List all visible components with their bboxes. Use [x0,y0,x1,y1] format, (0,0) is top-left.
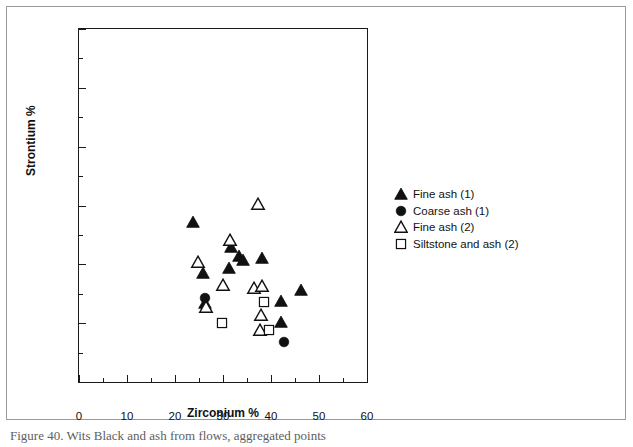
y-axis-tick [79,147,86,148]
x-axis-tick [175,375,176,382]
x-axis-tick [367,375,368,382]
data-point-marker [216,317,228,329]
data-point-marker [278,336,290,348]
y-axis-minor-tick [79,235,83,236]
x-axis-minor-tick [247,378,248,382]
data-point-marker [294,283,308,297]
x-axis-tick-label: 10 [107,411,147,423]
y-axis-minor-tick [79,294,83,295]
x-axis-tick [271,375,272,382]
x-axis-minor-tick [151,378,152,382]
x-axis-minor-tick [199,378,200,382]
data-point-marker [274,294,288,308]
data-point-marker [274,315,288,329]
data-point-marker [254,308,268,322]
legend-item-label: Coarse ash (1) [409,205,489,217]
x-axis-tick-label: 40 [251,411,291,423]
x-axis-minor-tick [295,378,296,382]
y-axis-tick [79,323,86,324]
data-point-marker [255,279,269,293]
x-axis-tick-label: 30 [203,411,243,423]
data-point-marker [216,278,230,292]
figure-caption: Figure 40. Wits Black and ash from flows… [10,428,610,444]
legend-item-3: Siltstone and ash (2) [392,236,607,253]
legend-item-1: Coarse ash (1) [392,203,607,220]
x-axis-tick-label: 0 [59,411,99,423]
data-point-marker [236,253,250,267]
legend-item-0: Fine ash (1) [392,186,607,203]
y-axis-tick [79,206,86,207]
x-axis-tick-label: 20 [155,411,195,423]
x-axis-tick [223,375,224,382]
filled-circle-icon [392,203,409,218]
y-axis-minor-tick [79,117,83,118]
legend-item-2: Fine ash (2) [392,219,607,236]
y-axis-minor-tick [79,58,83,59]
data-point-marker [258,296,270,308]
y-axis-tick [79,264,86,265]
open-square-icon [392,236,409,251]
y-axis-tick [79,382,86,383]
data-point-marker [255,251,269,265]
x-axis-tick [319,375,320,382]
data-point-marker [222,261,236,275]
x-axis-tick-label: 50 [299,411,339,423]
legend-item-label: Fine ash (1) [409,188,474,200]
plot-frame: 01020304050600102030405060 [78,28,368,383]
plot-area: 01020304050600102030405060 [79,29,367,382]
x-axis-minor-tick [343,378,344,382]
y-axis-tick [79,88,86,89]
data-point-marker [199,300,213,314]
data-point-marker [263,324,275,336]
filled-triangle-icon [392,187,409,202]
x-axis-tick [127,375,128,382]
chart-legend: Fine ash (1)Coarse ash (1)Fine ash (2)Si… [392,186,607,252]
x-axis-minor-tick [103,378,104,382]
data-point-marker [251,197,265,211]
y-axis-minor-tick [79,353,83,354]
y-axis-minor-tick [79,176,83,177]
x-axis-tick [79,375,80,382]
data-point-marker [191,255,205,269]
data-point-marker [223,233,237,247]
legend-item-label: Fine ash (2) [409,221,474,233]
legend-item-label: Siltstone and ash (2) [409,238,518,250]
x-axis-tick-label: 60 [347,411,387,423]
y-axis-title: Strontium % [24,105,38,176]
figure-page: Strontium % Zirconium % 0102030405060010… [0,0,633,447]
data-point-marker [186,215,200,229]
open-triangle-icon [392,220,409,235]
y-axis-tick [79,29,86,30]
